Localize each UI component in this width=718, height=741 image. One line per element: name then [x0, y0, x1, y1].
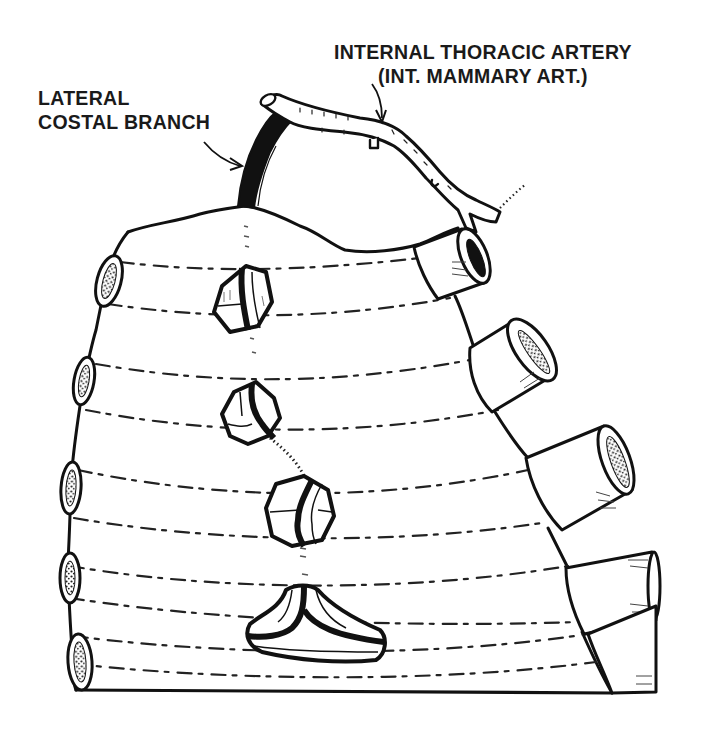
label-internal-thoracic-artery: INTERNAL THORACIC ARTERY (INT. MAMMARY A…: [334, 40, 632, 88]
xiphoid-segment: [247, 586, 385, 662]
left-rib-end-2: [70, 356, 98, 407]
label-ita-line1: INTERNAL THORACIC ARTERY: [334, 40, 632, 64]
anatomical-figure: INTERNAL THORACIC ARTERY (INT. MAMMARY A…: [0, 0, 718, 741]
sternal-segments: [214, 266, 385, 662]
label-lcb-line2: COSTAL BRANCH: [38, 110, 210, 134]
left-rib-end-1: [91, 253, 128, 309]
label-ita-line2: (INT. MAMMARY ART.): [334, 64, 632, 88]
right-cut-ribs: [414, 224, 660, 693]
dotted-vessel: [270, 438, 306, 480]
sternebra-3: [266, 476, 334, 546]
lateral-costal-branch-vessel: [238, 112, 292, 208]
right-cut-rib-2: [470, 311, 566, 412]
right-cut-rib-3: [526, 421, 641, 530]
left-rib-end-3: [59, 461, 83, 514]
internal-thoracic-artery-vessel: [259, 92, 500, 232]
label-lateral-costal-branch: LATERAL COSTAL BRANCH: [38, 86, 210, 134]
label-lcb-line1: LATERAL: [38, 86, 210, 110]
right-cut-rib-1: [414, 224, 497, 299]
artery-dotted-continuation: [500, 184, 526, 208]
arrow-lateral-costal: [204, 142, 240, 166]
sternebra-1: [214, 266, 272, 332]
left-rib-end-5: [66, 633, 94, 691]
left-rib-end-4: [60, 553, 80, 603]
sternebra-2: [222, 382, 280, 444]
